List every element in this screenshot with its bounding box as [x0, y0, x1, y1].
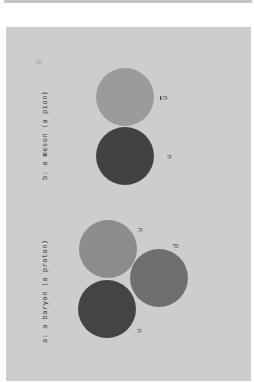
quark-antiup-circle	[96, 68, 154, 126]
quark-antiup-label: ū	[161, 96, 169, 100]
quark-up-top-circle	[79, 220, 137, 278]
quark-up-bottom-label: u	[135, 329, 143, 333]
quark-up-label: u	[165, 155, 173, 159]
scan-speck	[36, 59, 42, 65]
top-border-strip	[4, 0, 252, 3]
baryon-caption: a: a baryon (a proton)	[41, 239, 49, 343]
quark-up-circle	[96, 127, 154, 185]
quark-down-circle	[130, 249, 188, 307]
quark-up-top-label: u	[136, 228, 144, 232]
quark-down-label: d	[172, 244, 180, 248]
quark-up-bottom-circle	[78, 280, 136, 338]
meson-caption: b: a meson (a pion)	[41, 90, 49, 180]
